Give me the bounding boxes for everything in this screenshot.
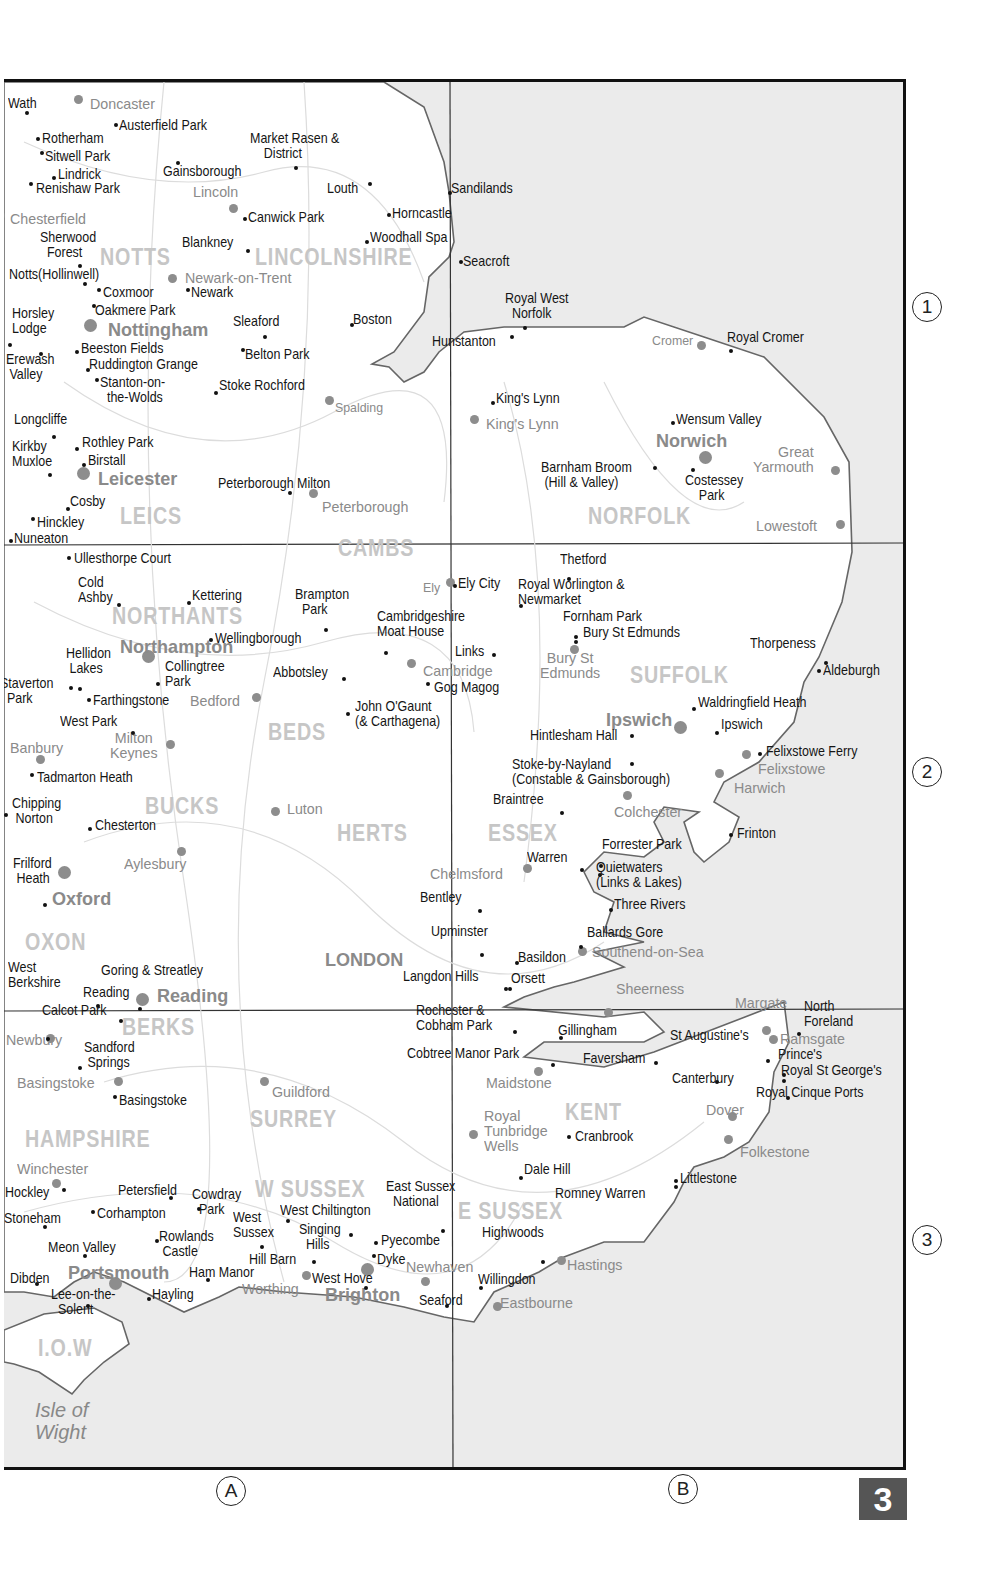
town-label: Aylesbury [124, 856, 186, 871]
golf-course-label: Hintlesham Hall [530, 728, 617, 743]
page-number: 3 [859, 1478, 907, 1520]
golf-course-label: Sitwell Park [45, 149, 110, 164]
golf-course-label: Stoke Rochford [219, 378, 305, 393]
golf-course-label: Reading [83, 985, 129, 1000]
golf-course-marker-icon [30, 773, 34, 777]
town-label: Ely [423, 580, 440, 595]
golf-course-label: Links [455, 644, 484, 659]
golf-course-label: Hinckley [37, 515, 84, 530]
golf-course-marker-icon [541, 1260, 545, 1264]
golf-course-label: Rotherham [42, 131, 104, 146]
golf-course-label: Lee-on-the- Solent [51, 1287, 115, 1317]
golf-course-label: Stanton-on- the-Wolds [100, 375, 165, 405]
town-marker-icon [715, 769, 724, 778]
golf-course-marker-icon [46, 1037, 50, 1041]
county-label: HAMPSHIRE [25, 1127, 150, 1151]
golf-course-marker-icon [797, 1032, 801, 1036]
golf-course-label: Collingtree Park [165, 659, 225, 689]
golf-course-marker-icon [782, 1079, 786, 1083]
town-marker-icon [557, 1256, 566, 1265]
golf-course-marker-icon [156, 682, 160, 686]
town-label: Ramsgate [780, 1031, 845, 1046]
golf-course-marker-icon [324, 628, 328, 632]
town-label: Guildford [272, 1084, 330, 1099]
golf-course-marker-icon [246, 249, 250, 253]
golf-course-label: Sleaford [233, 314, 279, 329]
golf-course-label: Cambridgeshire Moat House [377, 609, 465, 639]
golf-course-label: Ipswich [721, 717, 763, 732]
golf-course-label: Prince's [778, 1047, 822, 1062]
golf-course-marker-icon [288, 491, 292, 495]
town-marker-icon [252, 693, 261, 702]
golf-course-label: Newark [191, 285, 233, 300]
golf-course-marker-icon [113, 1095, 117, 1099]
golf-course-label: Seacroft [463, 254, 509, 269]
golf-course-marker-icon [426, 682, 430, 686]
golf-course-marker-icon [574, 635, 578, 639]
county-label: BEDS [268, 720, 326, 744]
county-label: E SUSSEX [458, 1199, 563, 1223]
town-marker-icon [762, 1026, 771, 1035]
golf-course-marker-icon [95, 378, 99, 382]
golf-course-label: Oakmere Park [95, 303, 175, 318]
golf-course-marker-icon [567, 1135, 571, 1139]
golf-course-label: West Sussex [233, 1210, 274, 1240]
golf-course-marker-icon [766, 1059, 770, 1063]
town-label: Southend-on-Sea [592, 944, 704, 959]
map-frame: NOTTSLINCOLNSHIRELEICSCAMBSNORFOLKNORTHA… [4, 79, 906, 1470]
golf-course-label: Upminster [431, 924, 488, 939]
golf-course-marker-icon [31, 517, 35, 521]
golf-course-marker-icon [52, 435, 56, 439]
golf-course-label: Bentley [420, 890, 462, 905]
golf-course-marker-icon [62, 1188, 66, 1192]
golf-course-label: Woodhall Spa [370, 230, 447, 245]
golf-course-label: Rowlands Castle [159, 1229, 214, 1259]
golf-course-marker-icon [286, 1219, 290, 1223]
town-marker-icon [271, 807, 280, 816]
golf-course-label: Bury St Edmunds [583, 625, 680, 640]
golf-course-label: Hunstanton [432, 334, 496, 349]
golf-course-label: Peterborough Milton [218, 476, 330, 491]
golf-course-label: Cosby [70, 494, 105, 509]
grid-column-a: A [216, 1476, 246, 1506]
golf-course-label: Fornham Park [563, 609, 642, 624]
golf-course-marker-icon [508, 987, 512, 991]
golf-course-marker-icon [25, 111, 29, 115]
golf-course-label: Notts(Hollinwell) [9, 267, 99, 282]
town-marker-icon [421, 1277, 430, 1286]
town-label: Cambridge [423, 663, 493, 678]
golf-course-marker-icon [209, 638, 213, 642]
town-label: Banbury [10, 740, 63, 755]
golf-course-marker-icon [69, 686, 73, 690]
golf-course-marker-icon [48, 473, 52, 477]
town-label: Basingstoke [17, 1075, 95, 1090]
golf-course-label: Longcliffe [14, 412, 67, 427]
golf-course-label: Corhampton [97, 1206, 166, 1221]
golf-course-label: Orsett [511, 971, 545, 986]
city-label: Norwich [656, 431, 727, 451]
town-marker-icon [604, 1008, 613, 1017]
golf-course-marker-icon [513, 1030, 517, 1034]
town-label: Harwich [734, 780, 785, 795]
town-label: Maidstone [486, 1075, 552, 1090]
town-marker-icon [742, 750, 751, 759]
golf-course-marker-icon [83, 282, 87, 286]
golf-course-label: Market Rasen & District [250, 131, 339, 161]
golf-course-label: West Hove [312, 1271, 373, 1286]
golf-course-marker-icon [729, 349, 733, 353]
golf-course-label: Horncastle [392, 206, 452, 221]
golf-course-marker-icon [674, 1179, 678, 1183]
golf-course-label: Barnham Broom (Hill & Valley) [541, 460, 632, 490]
golf-course-marker-icon [263, 335, 267, 339]
town-marker-icon [697, 341, 706, 350]
county-label: HERTS [337, 821, 408, 845]
golf-course-marker-icon [119, 1019, 123, 1023]
golf-course-label: Hill Barn [249, 1252, 296, 1267]
golf-course-marker-icon [368, 182, 372, 186]
town-label: Newbury [6, 1032, 62, 1047]
golf-course-label: Wellingborough [215, 631, 301, 646]
city-marker-icon [58, 866, 71, 879]
town-label: Chelmsford [430, 866, 503, 881]
golf-course-label: Willingdon [478, 1272, 536, 1287]
town-marker-icon [52, 1179, 61, 1188]
